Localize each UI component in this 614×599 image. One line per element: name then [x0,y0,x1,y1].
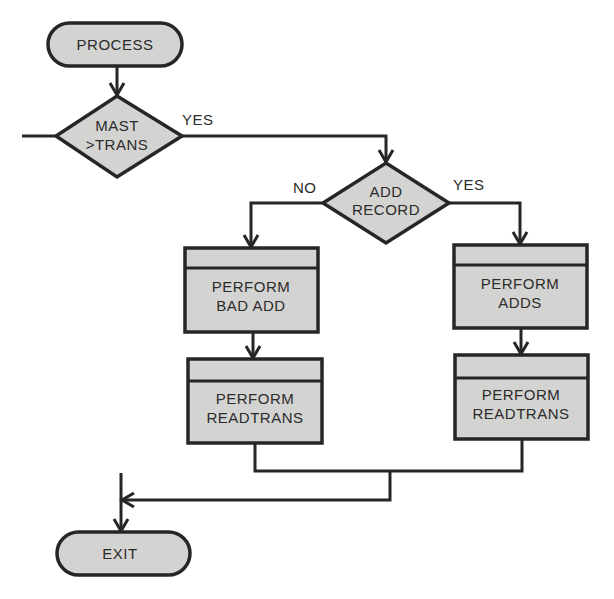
decision1-line1: MAST [95,117,139,134]
terminal-process-label: PROCESS [77,36,154,53]
terminal-exit: EXIT [57,532,190,575]
process-perform-readtrans-right: PERFORM READTRANS [455,355,588,439]
process-perform-bad-add: PERFORM BAD ADD [185,248,318,332]
box-bad-add-line2: BAD ADD [216,297,285,314]
decision1-line2: >TRANS [86,136,149,153]
decision-mast-gt-trans: MAST >TRANS [56,96,182,177]
decision-add-record: ADD RECORD [323,163,449,243]
edge-decision2-yes [449,203,520,244]
process-perform-adds: PERFORM ADDS [454,245,587,328]
edge-label-no: NO [293,179,317,196]
box-readtrans-left-line2: READTRANS [206,409,303,426]
box-bad-add-line1: PERFORM [212,278,291,295]
edge-readtrans-right-join [390,440,522,471]
edge-merge-to-exit [122,471,390,500]
edge-decision1-yes [182,136,386,162]
flowchart-diagram: PROCESS MAST >TRANS YES ADD RECORD NO YE… [0,0,614,599]
box-readtrans-right-line1: PERFORM [482,386,561,403]
box-adds-line2: ADDS [498,294,542,311]
box-adds-line1: PERFORM [481,275,560,292]
edge-label-yes: YES [182,111,214,128]
decision2-line2: RECORD [352,201,420,218]
edge-decision2-no [251,203,323,247]
terminal-process: PROCESS [48,23,182,66]
box-readtrans-left-line1: PERFORM [216,390,295,407]
box-readtrans-right-line2: READTRANS [472,405,569,422]
process-perform-readtrans-left: PERFORM READTRANS [188,359,322,443]
edge-readtrans-left-join [255,444,390,471]
decision2-line1: ADD [369,183,402,200]
edge-label-yes: YES [453,176,485,193]
terminal-exit-label: EXIT [102,545,137,562]
